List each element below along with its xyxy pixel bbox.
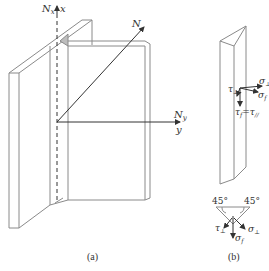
- angle-right-label: 45°: [244, 196, 260, 206]
- fillet-weld: [60, 34, 68, 46]
- panel-a: [9, 10, 150, 228]
- section-sigma-perp-arrow: [234, 218, 245, 229]
- x-axis-label: x: [60, 3, 66, 14]
- angle-left-label: 45°: [212, 196, 228, 206]
- diagram-canvas: Nx x N Ny y σ⊥ σf τ⊥ τf=τ//: [0, 0, 269, 271]
- sigma-f-label: σf: [258, 90, 268, 102]
- sigma-perp-label: σ⊥: [259, 76, 269, 87]
- ny-label: Ny: [173, 109, 188, 122]
- sigma-f-arrow: [240, 88, 258, 92]
- panel-a-label: (a): [87, 251, 98, 262]
- weld-prism: [220, 26, 246, 184]
- sigma-perp-arrow: [240, 86, 262, 88]
- section-tau-perp-label: τ⊥: [215, 223, 226, 234]
- section-sigma-perp-label: σ⊥: [248, 224, 260, 235]
- nx-label: Nx: [41, 3, 55, 16]
- panel-b: [216, 26, 250, 224]
- tau-perp-label: τ⊥: [228, 84, 239, 95]
- force-arrows-a: [57, 6, 180, 122]
- tau-f-label: τf=τ//: [235, 107, 260, 119]
- web-plate: [50, 41, 150, 205]
- n-label: N: [131, 18, 142, 29]
- section-sigma-f-label: σf: [235, 233, 245, 245]
- y-axis-label: y: [175, 124, 182, 135]
- fillet-weld-stress-figure: Nx x N Ny y σ⊥ σf τ⊥ τf=τ//: [0, 0, 269, 271]
- panel-b-label: (b): [228, 251, 240, 262]
